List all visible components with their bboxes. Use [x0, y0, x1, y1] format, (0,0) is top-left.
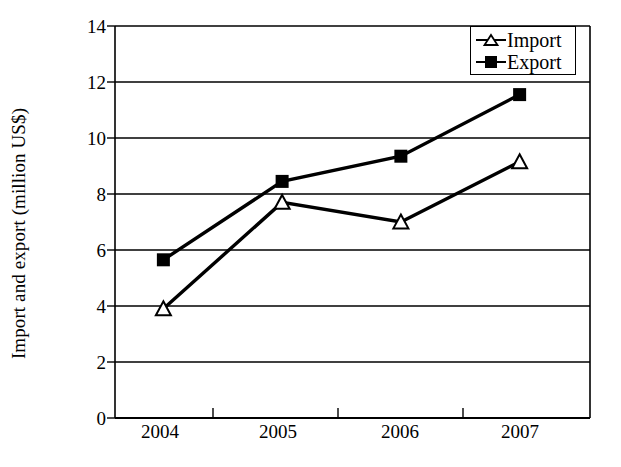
legend-item-import: Import — [476, 29, 571, 51]
legend-item-export: Export — [476, 51, 571, 73]
axis-frame — [115, 26, 590, 418]
x-tick-label: 2006 — [355, 422, 445, 441]
series-export — [157, 88, 526, 266]
x-tick-label: 2007 — [475, 422, 565, 441]
data-point-marker — [157, 253, 170, 266]
x-axis-ticks — [213, 408, 463, 418]
x-tick-label: 2004 — [115, 422, 205, 441]
x-tick-label: 2005 — [233, 422, 323, 441]
legend-label-export: Export — [506, 52, 561, 72]
open-triangle-marker-icon — [476, 31, 506, 49]
filled-square-marker-icon — [476, 53, 506, 71]
data-point-marker — [276, 175, 289, 188]
data-point-marker — [394, 150, 407, 163]
y-axis-ticks — [107, 26, 115, 418]
data-point-marker — [513, 88, 526, 101]
data-point-marker — [512, 154, 527, 168]
series-import — [156, 154, 527, 315]
legend: Import Export — [470, 26, 576, 75]
line-chart: Import and export (million US$) 14 12 10… — [0, 0, 621, 467]
grid-lines — [115, 26, 590, 362]
legend-label-import: Import — [506, 30, 561, 50]
